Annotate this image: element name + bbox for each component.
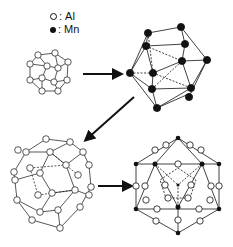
- arrow-down-left: [88, 97, 134, 138]
- diagram-canvas: [0, 0, 233, 247]
- combined-mackay-cluster: [133, 136, 222, 236]
- small-al-icosahedron: [27, 50, 71, 94]
- al-icosidodecahedron: [11, 136, 95, 232]
- mn-icosahedron: [126, 23, 210, 111]
